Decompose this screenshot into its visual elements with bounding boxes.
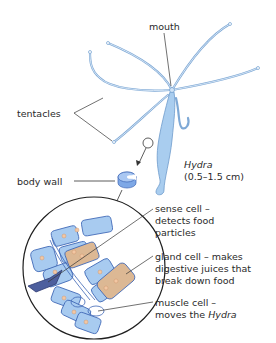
label-organism-size: (0.5–1.5 cm) (184, 171, 244, 182)
label-body-wall: body wall (17, 176, 62, 187)
hydra-body (156, 92, 175, 195)
label-organism-name: Hydra (184, 159, 213, 170)
body-wall-drawing (118, 172, 136, 188)
label-mouth: mouth (149, 21, 180, 32)
magnified-cells (23, 197, 165, 339)
magnify-circle-small (143, 138, 153, 148)
tentacles-drawing (90, 24, 258, 142)
label-tentacles: tentacles (17, 108, 61, 119)
